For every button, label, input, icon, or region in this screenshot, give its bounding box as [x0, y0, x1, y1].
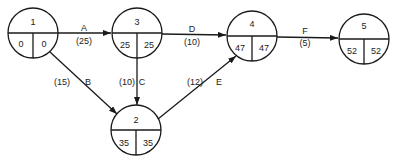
activity-D-name: D	[189, 25, 196, 34]
node-5-latest: 52	[371, 47, 381, 56]
activity-C-name: C	[139, 78, 146, 87]
node-1-id: 1	[30, 18, 35, 27]
node-3-latest: 25	[144, 41, 154, 50]
activity-B-name: B	[85, 78, 91, 87]
node-2-id: 2	[133, 116, 138, 125]
node-5-id: 5	[361, 22, 366, 31]
activity-E-duration: (12)	[187, 78, 203, 87]
activity-F-duration: (5)	[300, 39, 311, 48]
activity-A-name: A	[81, 24, 87, 33]
activity-F-name: F	[302, 27, 308, 36]
network-diagram: 1 0 0 3 25 25 4 47 47 5 52 52 2 35 35 A …	[0, 0, 393, 168]
activity-E-name: E	[216, 78, 222, 87]
node-1-earliest: 0	[18, 40, 23, 49]
node-4-latest: 47	[259, 44, 269, 53]
node-3-earliest: 25	[120, 41, 130, 50]
node-4-earliest: 47	[235, 44, 245, 53]
node-3	[112, 8, 162, 58]
node-2-earliest: 35	[119, 139, 129, 148]
node-5-earliest: 52	[347, 47, 357, 56]
activity-A-duration: (25)	[76, 37, 92, 46]
activity-B-duration: (15)	[54, 78, 70, 87]
node-3-id: 3	[134, 18, 139, 27]
node-4-id: 4	[249, 20, 254, 29]
arrow-E	[158, 56, 236, 119]
node-2-latest: 35	[143, 139, 153, 148]
arrow-D	[162, 34, 226, 35]
activity-C-duration: (10)	[119, 78, 135, 87]
activity-D-duration: (10)	[184, 38, 200, 47]
node-1-latest: 0	[41, 40, 46, 49]
node-1	[8, 8, 58, 58]
node-2	[111, 105, 161, 155]
